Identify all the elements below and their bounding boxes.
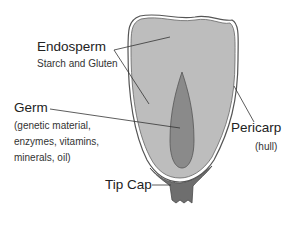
germ-detail-line-3: minerals, oil) (14, 151, 71, 165)
endosperm-sublabel: Starch and Gluten (37, 57, 118, 71)
pericarp-leader (234, 86, 254, 122)
tip-cap-label: Tip Cap (105, 177, 152, 192)
germ-detail-line-1: (genetic material, (14, 119, 91, 133)
pericarp-label: Pericarp (231, 120, 281, 135)
germ-detail-line-2: enzymes, vitamins, (14, 135, 99, 149)
pericarp-sublabel: (hull) (255, 140, 277, 154)
germ-label: Germ (14, 100, 48, 115)
endosperm-label: Endosperm (37, 39, 106, 54)
